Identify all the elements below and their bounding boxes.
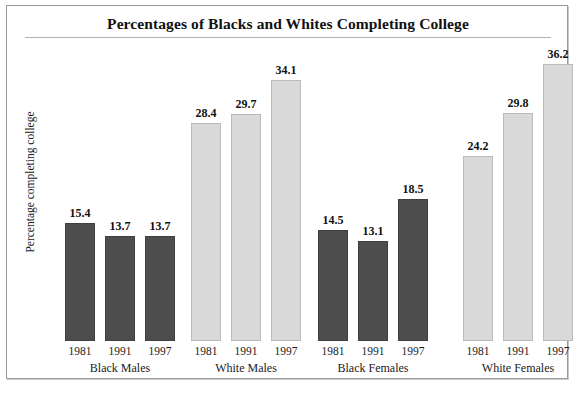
x-tick-label-1997: 1997 (138, 345, 182, 357)
x-tick-label-1991: 1991 (98, 345, 142, 357)
bar-value-label: 34.1 (262, 63, 310, 78)
bar-white-males-1991: 29.7 (231, 114, 261, 342)
bar-black-males-1991: 13.7 (105, 236, 135, 341)
x-tick-label-1997: 1997 (536, 345, 580, 357)
bar-black-females-1981: 14.5 (318, 230, 348, 341)
bar-black-males-1997: 13.7 (145, 236, 175, 341)
bar-value-label: 13.1 (349, 224, 397, 239)
bar-black-females-1991: 13.1 (358, 241, 388, 341)
bar-black-females-1997: 18.5 (398, 199, 428, 341)
group-label-white-females: White Females (463, 361, 573, 376)
bar-value-label: 29.7 (222, 97, 270, 112)
bar-value-label: 18.5 (389, 182, 437, 197)
figure: Percentages of Blacks and Whites Complet… (0, 0, 584, 399)
bar-rect (271, 80, 301, 341)
plot-area: 15.4198113.7199113.71997Black Males28.41… (7, 6, 569, 380)
bar-value-label: 24.2 (454, 139, 502, 154)
x-tick-label-1997: 1997 (391, 345, 435, 357)
group-label-black-males: Black Males (65, 361, 175, 376)
bar-rect (398, 199, 428, 341)
bar-white-females-1991: 29.8 (503, 113, 533, 341)
group-label-white-males: White Males (191, 361, 301, 376)
bar-white-males-1997: 34.1 (271, 80, 301, 341)
bar-rect (191, 123, 221, 341)
x-tick-label-1981: 1981 (311, 345, 355, 357)
bar-rect (65, 223, 95, 341)
x-tick-label-1997: 1997 (264, 345, 308, 357)
bar-white-females-1997: 36.2 (543, 64, 573, 341)
x-tick-label-1991: 1991 (224, 345, 268, 357)
bar-rect (231, 114, 261, 342)
bar-rect (358, 241, 388, 341)
x-tick-label-1991: 1991 (496, 345, 540, 357)
bar-black-males-1981: 15.4 (65, 223, 95, 341)
bar-rect (463, 156, 493, 341)
x-tick-label-1991: 1991 (351, 345, 395, 357)
x-tick-label-1981: 1981 (184, 345, 228, 357)
group-label-black-females: Black Females (318, 361, 428, 376)
bar-rect (105, 236, 135, 341)
x-tick-label-1981: 1981 (456, 345, 500, 357)
bar-value-label: 29.8 (494, 96, 542, 111)
x-tick-label-1981: 1981 (58, 345, 102, 357)
chart-frame: Percentages of Blacks and Whites Complet… (6, 5, 568, 379)
bar-rect (145, 236, 175, 341)
bar-white-males-1981: 28.4 (191, 123, 221, 341)
bar-value-label: 36.2 (534, 47, 582, 62)
bar-value-label: 13.7 (136, 219, 184, 234)
bar-rect (543, 64, 573, 341)
bar-rect (503, 113, 533, 341)
bar-rect (318, 230, 348, 341)
bar-white-females-1981: 24.2 (463, 156, 493, 341)
